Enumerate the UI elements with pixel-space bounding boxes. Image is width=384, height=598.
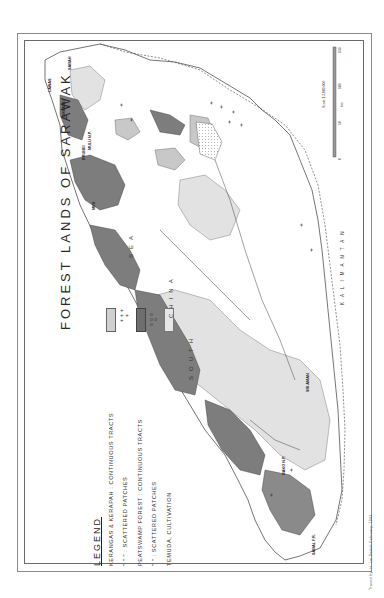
legend-swatch-kerangas-tracts bbox=[106, 308, 116, 332]
sea-label-sea: SEA bbox=[128, 231, 134, 258]
region-label-brunei: BRUNEI bbox=[82, 145, 86, 160]
legend-category: " " " bbox=[122, 554, 128, 566]
scale-tick-50: 50 bbox=[338, 121, 342, 125]
region-label-sabah: SABAH bbox=[68, 56, 72, 70]
legend-swatch-kerangas-patches: ++ ++ bbox=[120, 308, 130, 330]
legend-swatch-peatswamp-patches: oo oo bbox=[150, 312, 160, 328]
region-label-sabal: SABAL F.R. bbox=[312, 534, 316, 555]
region-label-mulu: MULU N.P. bbox=[88, 131, 92, 150]
scale-tick-0: 0 bbox=[338, 158, 342, 160]
sea-label-china: CHINA bbox=[168, 274, 174, 318]
region-label-miri: MIRI bbox=[92, 202, 96, 210]
legend-heading: LEGEND bbox=[92, 517, 102, 566]
scale-text: Scale 1:2,000,000 bbox=[322, 81, 326, 108]
legend-swatch-peatswamp-tracts bbox=[136, 308, 146, 332]
legend-row: " " : SCATTERED PATCHES bbox=[151, 481, 157, 566]
legend-row: PEATSWAMP FOREST : CONTINUOUS TRACTS bbox=[137, 419, 143, 566]
region-label-kalimantan: KALIMANTAN bbox=[340, 227, 345, 305]
legend-category: TEMUDA, CULTIVATION bbox=[166, 492, 172, 566]
legend-category: " " bbox=[151, 559, 157, 566]
region-label-sri-aman: SRI AMAN bbox=[306, 373, 310, 392]
legend-row: KERANGAS & KERAPAH : CONTINUOUS TRACTS bbox=[108, 413, 114, 566]
legend-type: CONTINUOUS TRACTS bbox=[137, 419, 143, 491]
region-label-bako: BAKO N.P. bbox=[282, 456, 286, 475]
scale-tick-100: 100 bbox=[338, 83, 342, 89]
legend-category: PEATSWAMP FOREST bbox=[137, 497, 143, 566]
scale-tick-150: 150 bbox=[338, 47, 342, 53]
legend-type: SCATTERED PATCHES bbox=[122, 477, 128, 548]
legend-type: CONTINUOUS TRACTS bbox=[108, 413, 114, 485]
legend-row: " " " : SCATTERED PATCHES bbox=[122, 477, 128, 566]
credit-text: Traced by: H. Lai Dated: February, 1993 bbox=[369, 514, 373, 590]
legend-type: SCATTERED PATCHES bbox=[151, 481, 157, 552]
scale-unit: km bbox=[340, 102, 344, 107]
region-label-limbang: LIMBANG bbox=[62, 100, 66, 118]
legend-row: TEMUDA, CULTIVATION bbox=[166, 492, 172, 566]
region-label-lawas: LAWAS bbox=[48, 78, 52, 92]
legend-category: KERANGAS & KERAPAH bbox=[108, 491, 114, 566]
sea-label-south: SOUTH bbox=[188, 334, 194, 380]
scale-bar bbox=[333, 47, 336, 157]
